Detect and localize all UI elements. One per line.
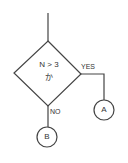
yes-label: YES (81, 63, 95, 70)
decision-condition: N > 3 (36, 61, 62, 69)
decision-question-mark: か (36, 74, 62, 82)
yes-branch-line (81, 74, 104, 100)
no-label: NO (50, 108, 61, 115)
flowchart-canvas (0, 0, 128, 163)
connector-b-label: B (37, 133, 57, 141)
connector-a-label: A (94, 106, 114, 114)
